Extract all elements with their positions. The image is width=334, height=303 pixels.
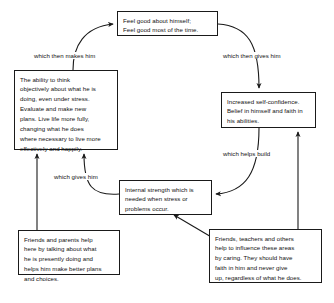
ability-line-5: plans. Live life more fully,	[20, 114, 113, 124]
ability-line-8: effectively and happily.	[20, 144, 113, 154]
friends-parents-line-4: helps him make better plans	[24, 264, 115, 274]
edge-label-which-then-makes-him: which then makes him	[33, 52, 96, 59]
feel-good-line-2: Feel good most of the time.	[123, 25, 213, 35]
edge-friendsteachers-to-internal	[174, 215, 213, 238]
ability-line-1: The ability to think	[20, 75, 113, 85]
friends-parents-line-1: Friends and parents help	[24, 235, 115, 245]
ability-line-6: changing what he does	[20, 124, 113, 134]
confidence-line-2: Belief in himself and faith in	[227, 106, 311, 116]
increased-self-confidence-box: Increased self-confidence. Belief in him…	[221, 92, 316, 128]
ability-line-2: objectively about what he is	[20, 84, 113, 94]
friends-teachers-line-3: by caring. They should have	[215, 253, 317, 263]
ability-line-4: Evaluate and make new	[20, 104, 113, 114]
friends-teachers-others-box: Friends, teachers and others help to inf…	[209, 229, 322, 283]
friends-parents-line-2: here by talking about what	[24, 244, 115, 254]
confidence-line-1: Increased self-confidence.	[227, 97, 311, 107]
friends-parents-line-5: and choices.	[24, 274, 115, 284]
edge-ability-to-feelgood	[73, 24, 113, 70]
internal-line-1: Internal strength which is	[125, 185, 207, 195]
friends-parents-line-3: he is presently doing and	[24, 254, 115, 264]
internal-strength-box: Internal strength which is needed when s…	[119, 180, 212, 215]
internal-line-3: problems occur.	[125, 204, 207, 214]
ability-to-think-box: The ability to think objectively about w…	[14, 70, 118, 150]
confidence-line-3: his abilities.	[227, 116, 311, 126]
friends-teachers-line-1: Friends, teachers and others	[215, 234, 317, 244]
edge-label-which-gives-him: which gives him	[53, 173, 99, 180]
feel-good-box: Feel good about himself; Feel good most …	[117, 11, 218, 36]
friends-teachers-line-2: help to influence these areas	[215, 243, 317, 253]
flow-diagram: Feel good about himself; Feel good most …	[0, 0, 334, 303]
feel-good-line-1: Feel good about himself;	[123, 16, 213, 26]
ability-line-7: where necessary to live more	[20, 134, 113, 144]
ability-line-3: doing, even under stress.	[20, 94, 113, 104]
friends-teachers-line-4: faith in him and never give	[215, 263, 317, 273]
internal-line-2: needed when stress or	[125, 194, 207, 204]
edge-label-which-helps-build: which helps build	[222, 150, 271, 157]
edge-confidence-to-internal	[216, 128, 259, 194]
edge-label-which-then-gives-him: which then gives him	[222, 52, 282, 59]
friends-teachers-line-5: up, regardless of what he does.	[215, 273, 317, 283]
friends-and-parents-box: Friends and parents help here by talking…	[18, 230, 120, 275]
